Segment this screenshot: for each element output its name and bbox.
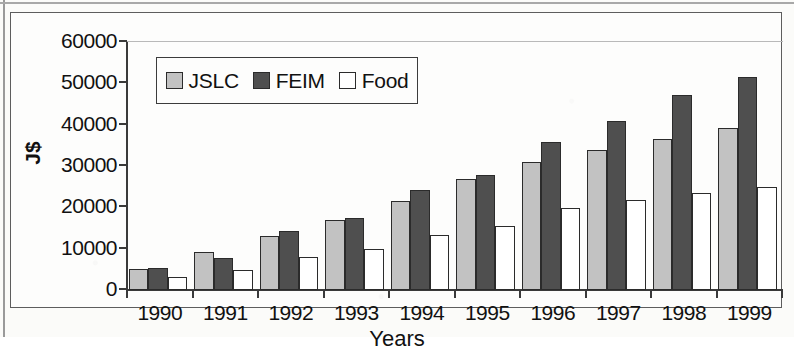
y-axis-tick-label: 40000 bbox=[17, 113, 117, 134]
bar-feim-1990 bbox=[148, 268, 168, 290]
bar-jslc-1990 bbox=[129, 269, 149, 290]
x-axis-tick bbox=[716, 290, 718, 298]
x-axis-tick bbox=[519, 290, 521, 298]
bar-jslc-1995 bbox=[456, 179, 476, 290]
bar-group bbox=[456, 42, 515, 290]
y-axis-tick-label: 0 bbox=[17, 278, 117, 299]
bar-food-1999 bbox=[757, 187, 777, 290]
bar-food-1997 bbox=[626, 200, 646, 290]
bar-feim-1995 bbox=[476, 175, 496, 290]
bar-food-1993 bbox=[364, 249, 384, 290]
bar-feim-1992 bbox=[279, 231, 299, 290]
x-axis-tick bbox=[126, 290, 128, 298]
bar-feim-1999 bbox=[738, 77, 758, 290]
x-axis-tick bbox=[257, 290, 259, 298]
bar-feim-1994 bbox=[410, 190, 430, 290]
bar-jslc-1998 bbox=[653, 139, 673, 290]
x-axis-tick bbox=[585, 290, 587, 298]
page-edge-top bbox=[0, 2, 794, 4]
x-axis-tick bbox=[781, 290, 783, 298]
y-axis-tick-label: 50000 bbox=[17, 71, 117, 92]
x-axis-tick bbox=[323, 290, 325, 298]
bar-group bbox=[653, 42, 712, 290]
legend-label: FEIM bbox=[276, 70, 325, 91]
y-axis-tick bbox=[119, 164, 127, 166]
chart-legend: JSLCFEIMFood bbox=[156, 57, 418, 104]
y-axis-tick-label: 10000 bbox=[17, 237, 117, 258]
bar-jslc-1992 bbox=[260, 236, 280, 290]
legend-item-jslc: JSLC bbox=[166, 70, 239, 91]
y-axis-tick bbox=[119, 205, 127, 207]
bar-jslc-1997 bbox=[587, 150, 607, 290]
x-axis-tick bbox=[192, 290, 194, 298]
bar-feim-1991 bbox=[214, 258, 234, 290]
light-gray-square-icon bbox=[166, 72, 183, 89]
chart-frame: J$ 0100002000030000400005000060000 JSLCF… bbox=[10, 12, 782, 308]
bar-food-1992 bbox=[299, 257, 319, 290]
bar-jslc-1999 bbox=[718, 128, 738, 290]
x-axis-tick bbox=[454, 290, 456, 298]
dark-gray-square-icon bbox=[253, 72, 270, 89]
white-square-icon bbox=[339, 72, 356, 89]
legend-label: JSLC bbox=[189, 70, 239, 91]
bar-feim-1997 bbox=[607, 121, 627, 290]
y-axis-tick-labels: 0100002000030000400005000060000 bbox=[11, 13, 117, 309]
x-axis-tick bbox=[650, 290, 652, 298]
x-axis-tick bbox=[388, 290, 390, 298]
bar-food-1991 bbox=[233, 270, 253, 290]
bar-group bbox=[718, 42, 777, 290]
y-axis-tick bbox=[119, 81, 127, 83]
legend-label: Food bbox=[362, 70, 409, 91]
page-edge-left bbox=[3, 0, 5, 337]
bar-group bbox=[522, 42, 581, 290]
y-axis-tick-label: 60000 bbox=[17, 30, 117, 51]
bar-jslc-1993 bbox=[325, 220, 345, 290]
bar-food-1998 bbox=[692, 193, 712, 290]
bar-feim-1998 bbox=[672, 95, 692, 290]
bar-jslc-1994 bbox=[391, 201, 411, 290]
bar-food-1996 bbox=[561, 208, 581, 290]
y-axis-tick bbox=[119, 247, 127, 249]
bar-food-1995 bbox=[495, 226, 515, 290]
bar-jslc-1996 bbox=[522, 162, 542, 290]
bar-food-1994 bbox=[430, 235, 450, 290]
y-axis-tick bbox=[119, 40, 127, 42]
y-axis-tick bbox=[119, 123, 127, 125]
y-axis-tick-label: 20000 bbox=[17, 195, 117, 216]
x-axis-tick-label: 1999 bbox=[709, 301, 789, 325]
y-axis-tick-label: 30000 bbox=[17, 154, 117, 175]
bar-feim-1993 bbox=[345, 218, 365, 290]
bar-food-1990 bbox=[168, 277, 188, 290]
bar-feim-1996 bbox=[541, 142, 561, 290]
bar-jslc-1991 bbox=[194, 252, 214, 290]
legend-item-food: Food bbox=[339, 70, 409, 91]
x-axis-title: Years bbox=[11, 326, 783, 350]
legend-item-feim: FEIM bbox=[253, 70, 325, 91]
bar-group bbox=[587, 42, 646, 290]
